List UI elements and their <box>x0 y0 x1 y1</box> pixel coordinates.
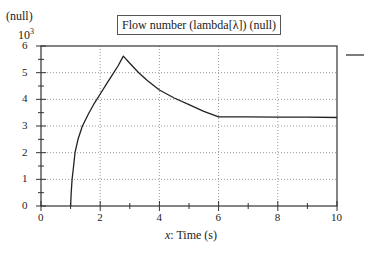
x-tick-label: 4 <box>156 211 162 223</box>
line-chart <box>0 0 377 257</box>
data-line <box>71 56 337 206</box>
y-tick-label: 5 <box>22 66 28 78</box>
y-tick-label: 3 <box>22 119 28 131</box>
y-tick-label: 6 <box>22 39 28 51</box>
x-tick-label: 6 <box>216 211 222 223</box>
x-tick-label: 8 <box>275 211 281 223</box>
y-tick-label: 1 <box>22 172 28 184</box>
x-tick-label: 10 <box>331 211 342 223</box>
x-tick-label: 0 <box>38 211 44 223</box>
x-axis-label: x: Time (s) <box>165 228 217 243</box>
x-tick-label: 2 <box>97 211 103 223</box>
y-tick-label: 0 <box>22 199 28 211</box>
y-tick-label: 2 <box>22 146 28 158</box>
y-tick-label: 4 <box>22 92 28 104</box>
